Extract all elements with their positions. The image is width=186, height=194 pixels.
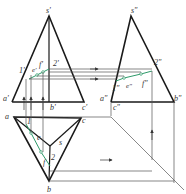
- label-b-top: b: [47, 185, 51, 194]
- label-1-front: 1': [19, 66, 25, 75]
- top-point-f: [40, 151, 43, 154]
- label-s-side: s": [131, 6, 138, 15]
- labels: s' a' b' c' 1' 2' e' f' s" a" b" c" 1" 2…: [3, 6, 182, 194]
- label-s-front: s': [46, 6, 51, 15]
- side-point-f: [140, 73, 143, 76]
- top-edge-bs: [49, 146, 50, 181]
- label-a-side: a": [100, 94, 108, 103]
- top-edge-as: [14, 117, 50, 146]
- label-f-side: f": [142, 79, 148, 88]
- side-point-e: [123, 77, 126, 80]
- top-view: [14, 117, 184, 190]
- label-s-top: s: [59, 138, 62, 147]
- projection-lines-horizontal: [29, 69, 152, 79]
- miter-line: [111, 117, 184, 190]
- label-b-front: b': [50, 103, 56, 112]
- front-outline: [12, 16, 84, 102]
- front-view: [12, 16, 84, 102]
- top-edge-cs: [50, 118, 81, 146]
- label-e-top: e: [37, 133, 41, 142]
- label-c-front: c': [82, 103, 88, 112]
- pyramid-projection-diagram: s' a' b' c' 1' 2' e' f' s" a" b" c" 1" 2…: [0, 0, 186, 194]
- label-a-top: a: [5, 112, 9, 121]
- label-2-side: 2": [154, 58, 162, 67]
- label-f-front: f': [39, 60, 43, 69]
- side-view: [111, 16, 174, 183]
- label-1-side: 1": [112, 84, 120, 93]
- label-e-front: e': [32, 66, 37, 74]
- label-1-top: 1: [27, 117, 31, 126]
- label-e-side: e": [126, 82, 132, 90]
- label-2-top: 2: [51, 153, 55, 162]
- label-2-front: 2': [53, 59, 59, 68]
- side-outline: [111, 16, 174, 102]
- label-f-top: f: [43, 158, 47, 167]
- label-c-side: c": [113, 103, 121, 112]
- label-a-front: a': [3, 94, 9, 103]
- label-b-side: b": [174, 94, 182, 103]
- label-c-top: c: [82, 116, 86, 125]
